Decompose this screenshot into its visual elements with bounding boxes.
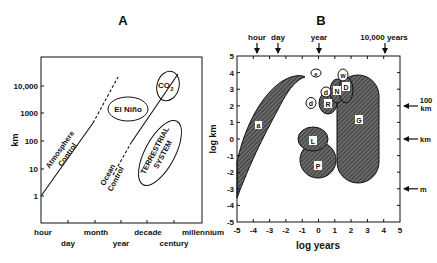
b-xtick: -5 xyxy=(233,226,241,235)
b-xtick: -3 xyxy=(266,226,274,235)
label-g: G xyxy=(356,117,362,124)
b-right-m: m xyxy=(420,185,427,194)
a-xtick-month: month xyxy=(84,228,109,237)
panel-b: B hour day year 10,000 years a e d d w xyxy=(208,13,432,251)
b-ytick: 5 xyxy=(230,52,235,61)
label-a: a xyxy=(257,122,261,129)
a-xtick-day: day xyxy=(61,239,75,248)
b-right-100-km: km xyxy=(421,104,432,113)
a-xtick-century: century xyxy=(160,239,189,248)
b-xtick: -2 xyxy=(282,226,290,235)
label-d: d xyxy=(309,100,313,107)
b-top-10000-years: 10,000 years xyxy=(360,33,408,42)
b-ytick: 3 xyxy=(230,85,235,94)
b-ytick: 2 xyxy=(230,102,235,111)
label-d-upper: D xyxy=(343,84,348,91)
a-ytick: 10,000 xyxy=(14,82,39,91)
b-xtick: 1 xyxy=(333,226,338,235)
b-xtick: 3 xyxy=(365,226,370,235)
b-ytick: 1 xyxy=(230,118,235,127)
b-xtick: 4 xyxy=(381,226,386,235)
a-ytick: 1000 xyxy=(20,109,38,118)
b-ytick: 0 xyxy=(230,135,235,144)
a-xtick-hour: hour xyxy=(34,228,52,237)
b-xtick: -4 xyxy=(250,226,258,235)
atmosphere-label: Atmosphere Control xyxy=(44,129,84,175)
b-top-hour: hour xyxy=(248,33,266,42)
label-l: L xyxy=(311,138,316,145)
b-right-km: km xyxy=(420,135,431,144)
a-xtick-decade: decade xyxy=(134,228,162,237)
b-ylabel: log km xyxy=(208,124,218,153)
b-xtick: 2 xyxy=(349,226,354,235)
a-ylabel: km xyxy=(10,133,20,146)
b-ytick: -4 xyxy=(227,201,235,210)
panel-a-title: A xyxy=(118,13,128,28)
b-ytick: -2 xyxy=(227,168,235,177)
co2-label: CO xyxy=(158,81,170,90)
b-ytick: -1 xyxy=(227,152,235,161)
region-a xyxy=(237,76,305,198)
a-xtick-year: year xyxy=(113,239,129,248)
b-ytick: -3 xyxy=(227,185,235,194)
down-arrow-icons xyxy=(257,43,385,53)
label-r: R xyxy=(325,101,330,108)
label-d: d xyxy=(324,89,328,96)
figure: A 10,000 1000 100 10 1 km hour month dec… xyxy=(0,0,437,263)
label-p: P xyxy=(316,163,321,170)
label-w: w xyxy=(339,72,346,79)
a-xtick-millennium: millennium xyxy=(182,228,224,237)
co2-subscript: 2 xyxy=(170,86,173,92)
b-xlabel: log years xyxy=(296,240,340,251)
left-arrow-icons xyxy=(404,106,418,189)
b-xtick: 0 xyxy=(316,226,321,235)
panel-b-title: B xyxy=(316,13,325,28)
b-xtick: 5 xyxy=(398,226,403,235)
b-ytick: 4 xyxy=(230,69,235,78)
a-ytick: 1 xyxy=(34,192,39,201)
b-top-day: day xyxy=(271,33,285,42)
terrestrial-label: TERRESTRIAL SYSTEM xyxy=(139,125,180,180)
a-ytick: 100 xyxy=(25,137,39,146)
panel-a: A 10,000 1000 100 10 1 km hour month dec… xyxy=(10,13,224,248)
b-xtick: -1 xyxy=(299,226,307,235)
label-n: N xyxy=(334,88,339,95)
a-ytick: 10 xyxy=(29,165,38,174)
b-top-year: year xyxy=(311,33,327,42)
el-nino-label: El Niño xyxy=(114,105,142,114)
ocean-label: Ocean Control xyxy=(98,161,126,193)
